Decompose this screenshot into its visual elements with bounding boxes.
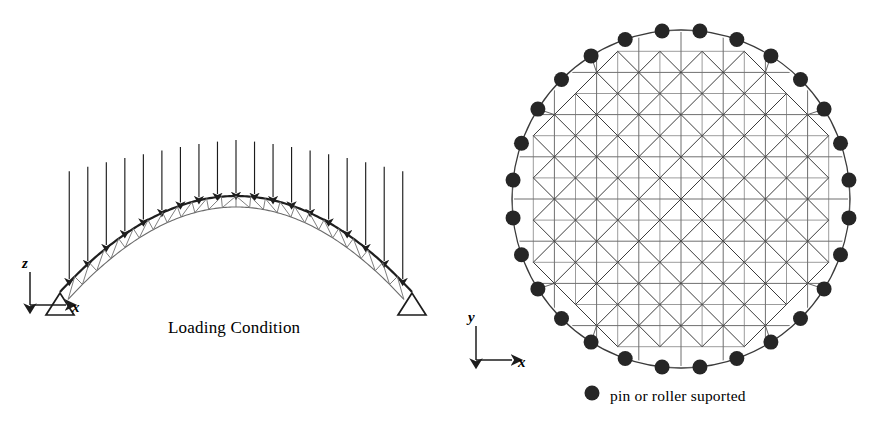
legend-label: pin or roller suported bbox=[610, 387, 746, 405]
web-post bbox=[361, 250, 368, 259]
web-post bbox=[347, 239, 353, 248]
web-diagonal bbox=[236, 196, 250, 208]
web-diagonal bbox=[723, 51, 744, 72]
web-diagonal bbox=[639, 178, 660, 199]
support-node bbox=[655, 24, 670, 39]
web-diagonal bbox=[660, 241, 681, 262]
web-diagonal bbox=[808, 157, 829, 178]
web-diagonal bbox=[702, 94, 723, 115]
web-diagonal bbox=[808, 262, 829, 283]
support-node bbox=[514, 247, 529, 262]
web-diagonal bbox=[744, 220, 765, 241]
web-diagonal bbox=[554, 283, 575, 304]
arch-bottom-chord bbox=[68, 207, 404, 299]
web-post bbox=[333, 229, 339, 238]
web-diagonal bbox=[618, 115, 639, 136]
web-diagonal bbox=[576, 115, 597, 136]
web-diagonal bbox=[765, 72, 786, 93]
web-diagonal bbox=[639, 72, 660, 93]
web-diagonal bbox=[787, 157, 808, 178]
web-diagonal bbox=[618, 326, 639, 347]
support-node bbox=[618, 32, 633, 47]
web-diagonal bbox=[723, 136, 744, 157]
web-diagonal bbox=[787, 94, 808, 115]
support-node bbox=[530, 281, 545, 296]
web-post bbox=[207, 199, 209, 210]
web-diagonal bbox=[744, 326, 765, 347]
web-diagonal bbox=[576, 283, 597, 304]
web-diagonal bbox=[744, 136, 765, 157]
web-diagonal bbox=[533, 199, 554, 220]
web-post bbox=[119, 239, 125, 248]
web-diagonal bbox=[681, 220, 702, 241]
web-post bbox=[148, 220, 153, 230]
web-diagonal bbox=[723, 94, 744, 115]
support-node bbox=[763, 335, 778, 350]
support-node bbox=[584, 335, 599, 350]
web-diagonal bbox=[681, 94, 702, 115]
web-diagonal bbox=[554, 94, 575, 115]
axis-label-y: y bbox=[466, 309, 475, 325]
support-node bbox=[618, 351, 633, 366]
support-node bbox=[793, 311, 808, 326]
web-diagonal bbox=[808, 115, 829, 136]
support-node bbox=[692, 24, 707, 39]
web-diagonal bbox=[723, 115, 744, 136]
web-diagonal bbox=[554, 262, 575, 283]
web-post bbox=[291, 207, 295, 217]
support-node bbox=[554, 311, 569, 326]
support-node bbox=[841, 173, 856, 188]
web-diagonal bbox=[702, 157, 723, 178]
web-diagonal bbox=[533, 262, 554, 283]
web-diagonal bbox=[554, 136, 575, 157]
web-diagonal bbox=[787, 283, 808, 304]
web-diagonal bbox=[576, 94, 597, 115]
web-diagonal bbox=[554, 115, 575, 136]
web-diagonal bbox=[639, 115, 660, 136]
web-diagonal bbox=[618, 199, 639, 220]
load-arrow-group bbox=[69, 140, 402, 279]
web-diagonal bbox=[702, 178, 723, 199]
web-diagonal bbox=[723, 157, 744, 178]
support-node bbox=[833, 247, 848, 262]
web-diagonal bbox=[618, 94, 639, 115]
web-diagonal bbox=[702, 51, 723, 72]
web-diagonal bbox=[597, 157, 618, 178]
web-diagonal bbox=[576, 199, 597, 220]
web-diagonal bbox=[639, 51, 660, 72]
web-diagonal bbox=[576, 241, 597, 262]
web-diagonal bbox=[808, 136, 829, 157]
web-diagonal bbox=[597, 72, 618, 93]
web-diagonal bbox=[681, 72, 702, 93]
support-node bbox=[530, 102, 545, 117]
arch-top-chord bbox=[60, 196, 412, 292]
support-left bbox=[46, 293, 74, 315]
web-diagonal bbox=[618, 178, 639, 199]
web-diagonal bbox=[681, 51, 702, 72]
web-post bbox=[263, 199, 265, 210]
web-diagonal bbox=[222, 196, 236, 208]
web-diagonal bbox=[660, 136, 681, 157]
web-diagonal bbox=[533, 241, 554, 262]
web-diagonal bbox=[723, 241, 744, 262]
web-diagonal bbox=[554, 178, 575, 199]
web-diagonal bbox=[744, 199, 765, 220]
web-diagonal bbox=[681, 241, 702, 262]
web-diagonal bbox=[639, 199, 660, 220]
support-node bbox=[692, 359, 707, 374]
web-diagonal bbox=[744, 262, 765, 283]
web-diagonal bbox=[744, 72, 765, 93]
web-diagonal bbox=[787, 241, 808, 262]
caption-loading-condition: Loading Condition bbox=[168, 318, 300, 338]
axis-label-x-plan: x bbox=[517, 354, 526, 370]
support-node bbox=[817, 281, 832, 296]
support-node bbox=[729, 351, 744, 366]
web-diagonal bbox=[660, 115, 681, 136]
web-diagonal bbox=[765, 178, 786, 199]
web-diagonal bbox=[554, 241, 575, 262]
web-diagonal bbox=[681, 115, 702, 136]
web-diagonal bbox=[702, 326, 723, 347]
support-node bbox=[817, 102, 832, 117]
web-diagonal bbox=[533, 157, 554, 178]
web-diagonal bbox=[597, 136, 618, 157]
